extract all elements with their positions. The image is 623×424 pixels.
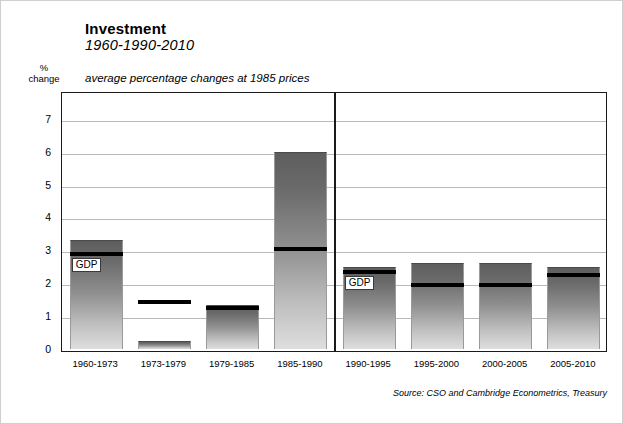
y-axis-caption-percent: %	[20, 62, 68, 73]
y-axis-caption: % change	[20, 62, 68, 84]
gdp-marker-1985-1990	[274, 247, 327, 251]
chart-title-years: 1960-1990-2010	[85, 37, 194, 53]
bar-1995-2000	[411, 263, 464, 349]
y-axis-tick-label: 0	[13, 343, 51, 355]
x-axis-label-2005-2010: 2005-2010	[539, 358, 607, 369]
x-axis-label-1995-2000: 1995-2000	[402, 358, 470, 369]
bar-2000-2005	[479, 263, 532, 349]
gdp-marker-1995-2000	[411, 283, 464, 287]
x-axis-label-1979-1985: 1979-1985	[198, 358, 266, 369]
bar-2005-2010	[547, 267, 600, 349]
y-axis-tick-label: 6	[13, 146, 51, 158]
y-axis-tick-label: 5	[13, 179, 51, 191]
x-axis-label-1973-1979: 1973-1979	[129, 358, 197, 369]
x-axis-label-1960-1973: 1960-1973	[61, 358, 129, 369]
bar-1960-1973	[70, 240, 123, 349]
chart-caption: average percentage changes at 1985 price…	[85, 72, 309, 84]
plot-area: GDPGDP	[61, 92, 607, 352]
x-axis-label-2000-2005: 2000-2005	[471, 358, 539, 369]
gdp-legend-label: GDP	[72, 258, 102, 272]
gdp-marker-2005-2010	[547, 273, 600, 277]
bar-1973-1979	[138, 341, 191, 349]
chart-figure: Investment 1960-1990-2010 average percen…	[0, 0, 623, 424]
gdp-marker-1973-1979	[138, 300, 191, 304]
y-axis-caption-change: change	[20, 73, 68, 84]
x-axis-label-1990-1995: 1990-1995	[334, 358, 402, 369]
panel-divider	[334, 93, 336, 351]
chart-title: Investment	[85, 20, 166, 37]
gdp-marker-1960-1973	[70, 252, 123, 256]
gdp-marker-1979-1985	[206, 306, 259, 310]
bar-1979-1985	[206, 305, 259, 349]
y-axis-tick-label: 7	[13, 113, 51, 125]
source-note: Source: CSO and Cambridge Econometrics, …	[393, 388, 607, 398]
y-axis-tick-label: 3	[13, 244, 51, 256]
gdp-marker-1990-1995	[343, 270, 396, 274]
gdp-marker-2000-2005	[479, 283, 532, 287]
gdp-legend-label: GDP	[345, 276, 375, 290]
plot-inner: GDPGDP	[62, 93, 606, 351]
y-axis-tick-label: 1	[13, 310, 51, 322]
x-axis-label-1985-1990: 1985-1990	[266, 358, 334, 369]
y-axis-tick-label: 2	[13, 277, 51, 289]
y-axis-tick-label: 4	[13, 211, 51, 223]
